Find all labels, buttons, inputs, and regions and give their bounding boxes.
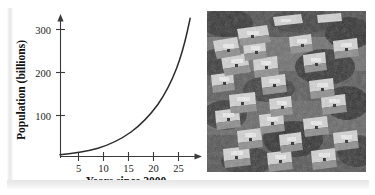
aerial-housing-photo	[207, 11, 366, 172]
y-axis	[57, 14, 63, 158]
y-tick-label-300: 300	[35, 25, 51, 36]
population-curve	[60, 18, 190, 155]
y-axis-arrowhead	[57, 14, 63, 22]
y-tick-label-100: 100	[35, 111, 51, 122]
x-tick-label-5: 5	[76, 163, 81, 174]
x-axis	[60, 153, 202, 159]
page-edge-shadow-bottom	[7, 180, 369, 189]
population-chart: 300 200 100 5 10 15 20 25 Years since 20…	[0, 0, 206, 195]
chart-svg: 300 200 100 5 10 15 20 25 Years since 20…	[0, 0, 206, 195]
aerial-housing-photo-svg	[207, 11, 366, 172]
figure-root: 300 200 100 5 10 15 20 25 Years since 20…	[0, 0, 375, 195]
x-tick-label-20: 20	[148, 163, 159, 174]
y-tick-label-200: 200	[35, 68, 51, 79]
y-axis-title: Population (billions)	[15, 40, 28, 140]
x-tick-label-10: 10	[98, 163, 109, 174]
x-axis-arrowhead	[195, 153, 203, 159]
x-tick-label-15: 15	[123, 163, 134, 174]
x-tick-label-25: 25	[173, 163, 184, 174]
